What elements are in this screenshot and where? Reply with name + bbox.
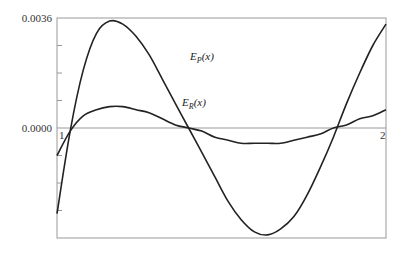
- y-tick-label-zero: 0.0000: [22, 122, 53, 134]
- curve-label-er: ER(x): [181, 96, 206, 111]
- y-tick-label-top: 0.0036: [22, 12, 53, 24]
- curve-label-ep: EP(x): [189, 50, 214, 65]
- x-tick-label-left: 1: [59, 129, 65, 141]
- chart: 0.0036 0.0000 1 2 EP(x) ER(x): [0, 0, 404, 253]
- x-tick-label-right: 2: [380, 129, 386, 141]
